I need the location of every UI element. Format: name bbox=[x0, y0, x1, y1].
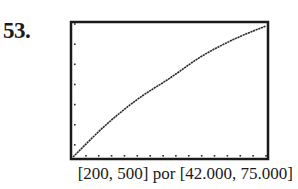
x-tick-dot bbox=[265, 155, 267, 157]
y-axis-ticks bbox=[74, 23, 76, 146]
y-tick-dot bbox=[74, 64, 76, 66]
x-tick-dot bbox=[201, 155, 203, 157]
x-axis-ticks bbox=[85, 155, 267, 157]
x-tick-dot bbox=[175, 155, 177, 157]
x-tick-dot bbox=[111, 155, 113, 157]
y-tick-dot bbox=[74, 84, 76, 86]
x-tick-dot bbox=[240, 155, 242, 157]
y-tick-dot bbox=[74, 104, 76, 106]
y-tick-dot bbox=[74, 43, 76, 45]
x-tick-dot bbox=[98, 155, 100, 157]
x-tick-dot bbox=[214, 155, 216, 157]
x-tick-dot bbox=[149, 155, 151, 157]
x-tick-dot bbox=[137, 155, 139, 157]
window-settings-label: [200, 500] por [42.000, 75.000] bbox=[0, 165, 298, 182]
y-tick-dot bbox=[74, 144, 76, 146]
y-tick-dot bbox=[74, 124, 76, 126]
function-curve bbox=[73, 26, 266, 157]
viewing-window-frame bbox=[71, 22, 268, 159]
x-tick-dot bbox=[227, 155, 229, 157]
calculator-graph bbox=[0, 0, 298, 189]
x-tick-dot bbox=[162, 155, 164, 157]
y-tick-dot bbox=[74, 23, 76, 25]
x-tick-dot bbox=[252, 155, 254, 157]
x-tick-dot bbox=[188, 155, 190, 157]
x-tick-dot bbox=[85, 155, 87, 157]
x-tick-dot bbox=[124, 155, 126, 157]
